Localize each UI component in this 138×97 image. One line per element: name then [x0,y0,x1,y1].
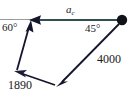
label-magnitude-1890: 1890 [8,79,32,91]
vector-diagram: ac 60° 45° 4000 1890 [0,0,138,97]
label-ac: ac [66,4,75,17]
label-angle-60: 60° [2,22,17,33]
label-magnitude-4000: 4000 [97,53,121,65]
origin-dot [117,15,127,25]
label-angle-45: 45° [85,23,100,34]
v1890-vector-arrowhead [14,70,27,78]
closing-vector-arrowhead [26,20,34,33]
label-ac-subscript: c [72,9,75,17]
closing-vector-line [17,27,29,70]
